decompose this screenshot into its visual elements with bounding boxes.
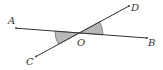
label-a: A — [7, 15, 15, 26]
intersecting-lines-diagram: A B C D O — [0, 0, 163, 70]
label-c: C — [26, 56, 34, 67]
line-cd — [36, 6, 129, 57]
label-b: B — [147, 37, 155, 48]
point-a — [15, 27, 17, 29]
shaded-angle-aoc — [55, 31, 79, 44]
point-c — [35, 56, 37, 58]
label-d: D — [130, 2, 139, 13]
point-d — [128, 5, 130, 7]
label-o: O — [77, 37, 85, 48]
